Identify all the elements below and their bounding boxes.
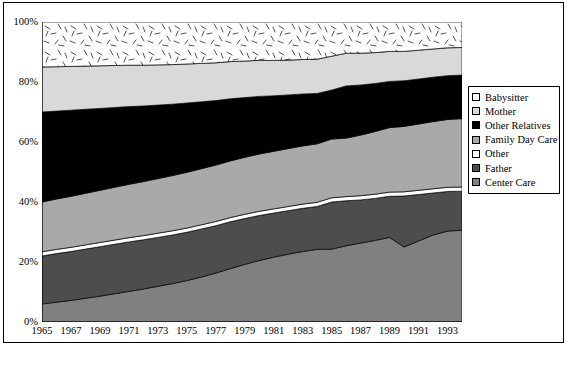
plot-area xyxy=(42,22,462,322)
y-axis-label: 60% xyxy=(4,137,38,147)
legend-swatch xyxy=(472,93,480,101)
legend-swatch xyxy=(472,178,480,186)
x-axis: 1965196719691971197319751977197919811983… xyxy=(42,325,462,341)
legend-label: Center Care xyxy=(485,177,535,188)
legend-item-center-care[interactable]: Center Care xyxy=(472,175,555,189)
legend-item-other[interactable]: Other xyxy=(472,147,555,161)
x-axis-label: 1993 xyxy=(431,325,465,337)
legend-swatch xyxy=(472,136,480,144)
legend-item-family-day-care[interactable]: Family Day Care xyxy=(472,133,555,147)
legend-swatch xyxy=(472,150,480,158)
y-axis-label: 20% xyxy=(4,257,38,267)
legend-label: Other xyxy=(485,148,509,159)
y-axis: 0%20%40%60%80%100% xyxy=(0,22,38,322)
y-axis-label: 80% xyxy=(4,77,38,87)
legend-label: Other Relatives xyxy=(485,120,551,131)
legend-swatch xyxy=(472,121,480,129)
legend-swatch xyxy=(472,107,480,115)
chart-legend: BabysitterMotherOther RelativesFamily Da… xyxy=(468,86,560,194)
legend-item-mother[interactable]: Mother xyxy=(472,104,555,118)
legend-swatch xyxy=(472,164,480,172)
figure-container: 0%20%40%60%80%100% xyxy=(0,0,567,367)
legend-label: Family Day Care xyxy=(485,134,557,145)
legend-item-babysitter[interactable]: Babysitter xyxy=(472,90,555,104)
stacked-area-chart xyxy=(42,22,462,322)
y-axis-label: 100% xyxy=(4,17,38,27)
legend-label: Babysitter xyxy=(485,92,528,103)
area-series-group xyxy=(42,22,462,322)
legend-label: Mother xyxy=(485,106,516,117)
y-axis-label: 40% xyxy=(4,197,38,207)
legend-item-other-relatives[interactable]: Other Relatives xyxy=(472,118,555,132)
legend-label: Father xyxy=(485,163,512,174)
legend-item-father[interactable]: Father xyxy=(472,161,555,175)
